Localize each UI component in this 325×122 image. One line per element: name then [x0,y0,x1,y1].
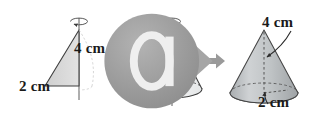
figure-canvas: 4 cm 2 cm 4 cm 2 cm [0,0,325,122]
cone-radius-label: 2 cm [258,95,289,110]
cone-height-label: 4 cm [262,15,293,30]
triangle-base-label: 2 cm [19,79,50,94]
triangle-height-label: 4 cm [74,41,105,56]
